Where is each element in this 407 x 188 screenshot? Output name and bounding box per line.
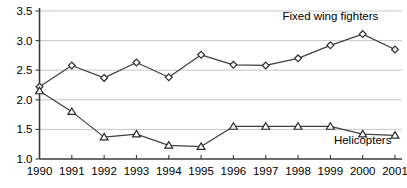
series-line-1 [40,34,396,87]
x-tick-label-1996: 1996 [221,165,247,177]
data-point-marker [327,42,334,49]
data-point-marker [230,61,237,68]
line-chart: 1.01.52.02.53.03.5 199019911992199319941… [0,0,407,188]
y-tick-label-1.0: 1.0 [17,153,33,165]
x-tick-label-1999: 1999 [318,165,344,177]
series-markers-group [36,31,399,150]
x-tick-label-1991: 1991 [59,165,85,177]
y-axis-tick-labels-group: 1.01.52.02.53.03.5 [17,5,33,165]
data-point-marker [359,31,366,38]
data-point-marker [262,62,269,69]
x-tick-label-1998: 1998 [285,165,311,177]
y-tick-label-1.5: 1.5 [17,123,33,135]
data-point-marker [68,108,76,115]
x-tick-label-1990: 1990 [27,165,53,177]
series-label-2: Helicopters [334,134,392,146]
gridlines-group [40,11,403,129]
x-tick-label-1997: 1997 [253,165,279,177]
data-point-marker [101,74,108,81]
y-tick-label-2.5: 2.5 [17,64,33,76]
x-axis-tick-labels-group: 1990199119921993199419951996199719981999… [27,165,407,177]
x-tick-label-1994: 1994 [156,165,182,177]
y-tick-label-2.0: 2.0 [17,94,33,106]
series-label-1: Fixed wing fighters [282,10,378,22]
x-tick-label-1995: 1995 [188,165,214,177]
x-tick-label-1992: 1992 [91,165,117,177]
y-tick-label-3.0: 3.0 [17,35,33,47]
data-point-marker [133,59,140,66]
y-tick-label-3.5: 3.5 [17,5,33,17]
data-point-marker [295,55,302,62]
x-tick-label-2000: 2000 [350,165,376,177]
x-tick-label-1993: 1993 [124,165,150,177]
data-point-marker [68,62,75,69]
data-point-marker [392,46,399,53]
x-tick-label-2001: 2001 [382,165,407,177]
chart-canvas: 1.01.52.02.53.03.5 199019911992199319941… [0,0,407,188]
data-point-marker [133,130,141,137]
